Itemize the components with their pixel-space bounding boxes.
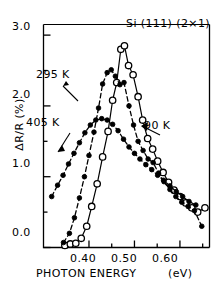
- data-point: [72, 215, 77, 220]
- data-point: [77, 196, 82, 201]
- y-axis-label: ΔR/R (%): [13, 82, 26, 168]
- data-point: [82, 174, 87, 179]
- data-point: [99, 116, 104, 121]
- y-tick-label-0: 0.0: [12, 226, 31, 239]
- data-point: [149, 167, 154, 172]
- data-point: [174, 194, 179, 199]
- data-point: [61, 240, 66, 245]
- data-point: [135, 94, 141, 100]
- series-90-k: [62, 43, 208, 249]
- data-point: [161, 178, 166, 183]
- data-point: [72, 151, 77, 156]
- data-point: [121, 43, 127, 49]
- data-point: [67, 231, 72, 236]
- data-point: [88, 123, 93, 128]
- data-point: [66, 162, 71, 167]
- data-point: [109, 97, 115, 103]
- data-point: [87, 153, 92, 158]
- arrowhead-405k: [58, 145, 65, 152]
- data-point: [130, 72, 136, 78]
- data-point: [77, 140, 82, 145]
- data-point: [174, 189, 179, 194]
- x-tick-label-040: 0.40: [70, 252, 96, 265]
- data-point: [110, 122, 115, 127]
- y-tick-label-3: 3.0: [12, 20, 31, 33]
- panel-title: Si (111) (2×1): [126, 17, 210, 30]
- data-point: [144, 135, 150, 141]
- figure-panel: Si (111) (2×1) 3.0 2.0 1.0 0.0 0.40 0.50…: [0, 0, 221, 288]
- data-point: [78, 235, 84, 241]
- data-point: [194, 203, 199, 208]
- data-point: [94, 181, 100, 187]
- data-point: [138, 157, 143, 162]
- series-annotation-90k: 90 K: [144, 119, 170, 132]
- data-point: [151, 160, 156, 165]
- data-point: [61, 173, 66, 178]
- x-tick-label-060: 0.60: [152, 252, 178, 265]
- data-point: [149, 146, 155, 152]
- data-point: [89, 203, 95, 209]
- data-point: [179, 200, 184, 205]
- y-axis-ticks: [44, 35, 51, 247]
- data-point: [92, 130, 97, 135]
- data-point: [141, 148, 146, 153]
- data-point: [105, 70, 110, 75]
- data-point: [132, 151, 137, 156]
- x-axis-label: PHOTON ENERGY: [36, 267, 136, 280]
- data-point: [122, 80, 127, 85]
- data-point: [55, 183, 60, 188]
- data-point: [144, 162, 149, 167]
- data-point: [187, 199, 192, 204]
- data-point: [99, 154, 105, 160]
- data-point: [186, 204, 191, 209]
- data-point: [131, 123, 136, 128]
- data-point: [199, 224, 204, 229]
- data-point: [136, 139, 141, 144]
- data-point: [127, 145, 132, 150]
- data-point: [146, 157, 151, 162]
- data-point: [49, 194, 54, 199]
- data-point: [73, 240, 79, 246]
- data-point: [127, 104, 132, 109]
- data-point: [94, 118, 99, 123]
- arrowhead-295k: [63, 81, 69, 86]
- annotation-leader-lines: [58, 81, 160, 152]
- data-point: [105, 118, 110, 123]
- data-point: [155, 173, 160, 178]
- data-point: [100, 82, 105, 87]
- series-annotation-405k: 405 K: [26, 116, 60, 129]
- data-point: [202, 205, 208, 211]
- data-point: [116, 128, 121, 133]
- data-point: [113, 74, 118, 79]
- data-point: [105, 128, 111, 134]
- data-point: [125, 62, 131, 68]
- data-point: [192, 208, 197, 213]
- data-point: [84, 223, 90, 229]
- data-point: [168, 184, 173, 189]
- data-point: [83, 131, 88, 136]
- plot-canvas: [0, 0, 221, 288]
- x-axis-ticks: [66, 241, 202, 248]
- x-axis-unit-label: (eV): [168, 267, 192, 280]
- data-series-layer: [49, 43, 208, 249]
- data-point: [109, 68, 114, 73]
- x-tick-label-050: 0.50: [111, 252, 137, 265]
- series-295-k: [61, 68, 204, 245]
- series-line: [64, 70, 202, 243]
- data-point: [180, 194, 185, 199]
- data-point: [121, 137, 126, 142]
- leader-295k: [63, 86, 78, 101]
- data-point: [96, 106, 101, 111]
- series-annotation-295k: 295 K: [36, 68, 70, 81]
- series-405-k: [49, 116, 198, 207]
